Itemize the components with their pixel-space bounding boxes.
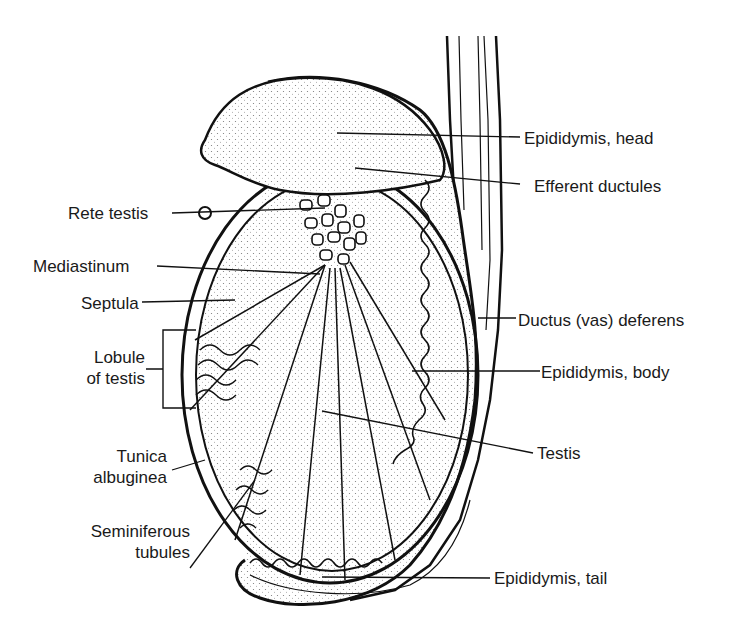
label-lobule-of-testis: Lobule of testis — [80, 347, 145, 389]
label-ductus-deferens: Ductus (vas) deferens — [518, 310, 684, 331]
rete-testis-loop — [199, 207, 211, 219]
label-lobule-line1: Lobule — [80, 347, 145, 368]
label-seminiferous-tubules: Seminiferous tubules — [62, 521, 190, 563]
label-lobule-line2: of testis — [80, 368, 145, 389]
label-epididymis-body: Epididymis, body — [541, 362, 670, 383]
lobule-bracket — [146, 330, 196, 408]
label-efferent-ductules: Efferent ductules — [534, 176, 661, 197]
label-seminiferous-line2: tubules — [62, 542, 190, 563]
label-mediastinum: Mediastinum — [33, 256, 129, 277]
label-epididymis-tail: Epididymis, tail — [494, 568, 607, 589]
label-tunica-line1: Tunica — [75, 446, 167, 467]
label-rete-testis: Rete testis — [68, 203, 148, 224]
label-tunica-albuginea: Tunica albuginea — [75, 446, 167, 488]
epididymis-head-shape — [201, 78, 444, 194]
label-seminiferous-line1: Seminiferous — [62, 521, 190, 542]
label-testis: Testis — [537, 443, 580, 464]
label-tunica-line2: albuginea — [75, 467, 167, 488]
label-septula: Septula — [81, 293, 139, 314]
label-epididymis-head: Epididymis, head — [524, 128, 653, 149]
